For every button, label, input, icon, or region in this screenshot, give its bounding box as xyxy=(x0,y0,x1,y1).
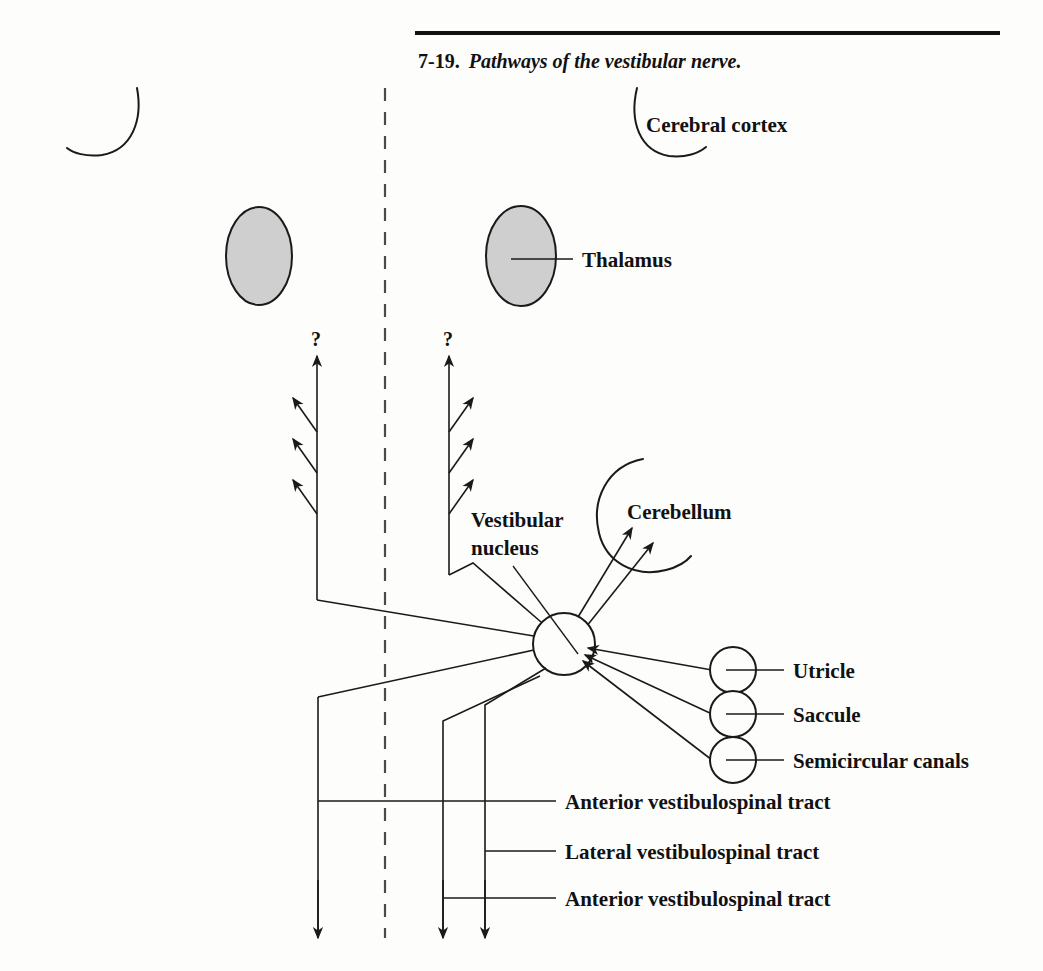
nucleus-to-cerebellum-arrow-1 xyxy=(575,528,632,622)
ascending-branch-right-2 xyxy=(449,439,473,473)
anterior-tract-upper-label: Anterior vestibulospinal tract xyxy=(565,790,831,814)
ascending-branch-left-2 xyxy=(293,439,317,473)
semicircular-canals-afferent-arrow xyxy=(583,661,712,760)
utricle-label: Utricle xyxy=(793,659,855,683)
saccule-afferent-arrow xyxy=(585,655,712,714)
cerebral-cortex-arc-left xyxy=(67,88,139,156)
question-mark-right: ? xyxy=(443,328,453,350)
vestibular-pathways-diagram: 7-19. Pathways of the vestibular nerve. … xyxy=(0,0,1043,971)
nucleus-to-cerebellum-arrow-2 xyxy=(586,543,653,627)
figure-caption: 7-19. Pathways of the vestibular nerve. xyxy=(418,50,741,73)
lateral-tract-label: Lateral vestibulospinal tract xyxy=(565,840,819,864)
ascending-branch-right-1 xyxy=(449,398,473,432)
ascending-branch-left-3 xyxy=(293,480,317,514)
anterior-tract-lower-label: Anterior vestibulospinal tract xyxy=(565,887,831,911)
descending-tract-anterior-ipsi xyxy=(443,676,540,938)
figure-page: 7-19. Pathways of the vestibular nerve. … xyxy=(0,0,1043,971)
cerebral-cortex-label: Cerebral cortex xyxy=(646,113,788,137)
figure-number: 7-19. xyxy=(418,50,460,72)
nucleus-to-ascending-left xyxy=(317,600,540,637)
nucleus-to-descending-left-crossing xyxy=(318,650,534,697)
semicircular-canals-label: Semicircular canals xyxy=(793,749,969,773)
ascending-branch-left-1 xyxy=(293,398,317,432)
vestibular-nucleus-label-line1: Vestibular xyxy=(471,508,564,532)
cerebellum-label: Cerebellum xyxy=(627,500,732,524)
utricle-afferent-arrow xyxy=(588,648,712,670)
ascending-branch-right-3 xyxy=(449,480,473,514)
question-mark-left: ? xyxy=(311,328,321,350)
thalamus-left-ellipse xyxy=(226,207,292,305)
vestibular-nucleus-label-line2: nucleus xyxy=(471,536,539,560)
thalamus-right-ellipse xyxy=(486,206,556,306)
figure-caption-text: Pathways of the vestibular nerve. xyxy=(468,50,742,73)
nucleus-to-ascending-right xyxy=(449,563,541,622)
vestibular-nucleus-circle xyxy=(533,613,595,675)
saccule-label: Saccule xyxy=(793,703,861,727)
thalamus-label: Thalamus xyxy=(582,248,672,272)
